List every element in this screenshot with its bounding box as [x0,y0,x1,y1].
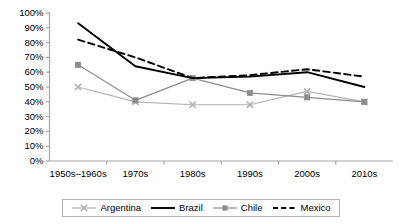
legend-label: Chile [241,203,263,213]
x-axis-tick-label: 2010s [319,169,401,179]
series-line [78,65,364,102]
y-axis-tick-label: 0% [30,156,44,166]
series-line [78,87,364,105]
legend-swatch-icon [71,203,97,213]
chart-legend: ArgentinaBrazilChileMexico [62,199,340,217]
legend-label: Brazil [179,203,203,213]
legend-entry-argentina: Argentina [71,203,141,213]
y-axis-tick-label: 90% [24,23,43,33]
series-line [78,40,364,78]
y-axis-tick-label: 50% [24,82,43,92]
legend-label: Argentina [100,203,141,213]
data-point-marker [305,95,310,100]
legend-entry-chile: Chile [212,203,263,213]
legend-entry-mexico: Mexico [272,203,331,213]
legend-label: Mexico [301,203,331,213]
line-chart: 100%90%80%70%60%50%40%30%20%10%0% 1950s–… [0,0,401,224]
data-point-marker [247,90,252,95]
y-axis-tick-label: 60% [24,67,43,77]
y-axis-tick-label: 70% [24,52,43,62]
y-axis-tick-label: 10% [24,141,43,151]
data-point-marker [133,98,138,103]
y-axis-tick-label: 100% [19,8,43,18]
plot-area [0,0,401,224]
data-point-marker [76,62,81,67]
y-axis-tick-label: 30% [24,112,43,122]
data-point-marker [362,99,367,104]
series-mexico [78,40,364,78]
legend-swatch-icon [272,203,298,213]
axis-lines [50,12,394,161]
y-axis-tick-label: 40% [24,97,43,107]
y-axis-tick-label: 80% [24,38,43,48]
legend-swatch-icon [150,203,176,213]
series-argentina [75,84,367,108]
series-brazil [78,23,364,87]
series-line [78,23,364,87]
y-axis-tick-label: 20% [24,126,43,136]
legend-swatch-icon [212,203,238,213]
legend-entry-brazil: Brazil [150,203,203,213]
